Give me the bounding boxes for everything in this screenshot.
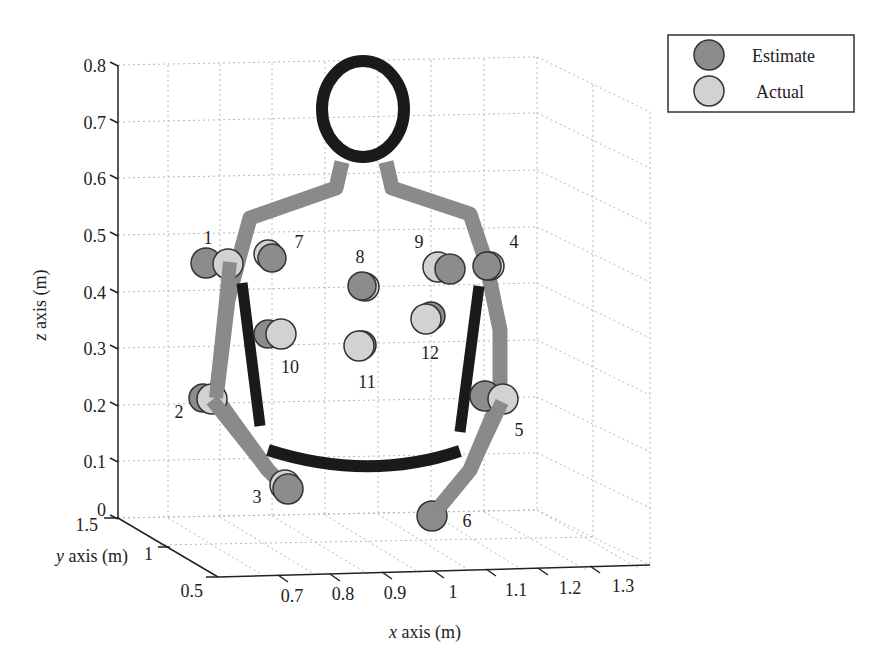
z-axis-label: z axis (m) — [30, 269, 51, 341]
svg-text:0: 0 — [97, 500, 106, 520]
svg-text:1.2: 1.2 — [559, 578, 582, 598]
actual-point-12 — [411, 304, 441, 334]
torso-left-line — [242, 283, 260, 426]
estimate-point-3 — [273, 474, 303, 504]
svg-text:0.2: 0.2 — [84, 396, 107, 416]
svg-text:1.5: 1.5 — [76, 515, 99, 535]
x-tick-labels: 0.7 0.8 0.9 1 1.1 1.2 1.3 — [281, 576, 635, 606]
svg-text:1.1: 1.1 — [505, 580, 528, 600]
svg-text:10: 10 — [281, 357, 299, 377]
svg-text:0.6: 0.6 — [84, 169, 107, 189]
legend-estimate-label: Estimate — [752, 46, 815, 66]
svg-text:0.7: 0.7 — [84, 113, 107, 133]
head — [322, 61, 404, 157]
legend: Estimate Actual — [668, 35, 854, 112]
svg-text:1: 1 — [204, 228, 213, 248]
y-axis-label: y axis (m) — [54, 546, 128, 567]
svg-text:1: 1 — [449, 582, 458, 602]
floor-grid — [118, 510, 638, 576]
legend-actual-label: Actual — [756, 82, 804, 102]
estimate-point-9 — [435, 254, 465, 284]
svg-text:0.1: 0.1 — [84, 452, 107, 472]
svg-text:11: 11 — [358, 372, 375, 392]
svg-text:8: 8 — [356, 247, 365, 267]
torso-right-line — [460, 286, 479, 432]
actual-point-11 — [344, 331, 374, 361]
estimate-point-8 — [348, 272, 376, 300]
legend-actual-marker — [694, 76, 724, 106]
estimate-point-7 — [258, 244, 286, 272]
x-axis-label: x axis (m) — [388, 622, 461, 643]
svg-text:0.3: 0.3 — [84, 339, 107, 359]
svg-text:0.9: 0.9 — [384, 583, 407, 603]
svg-text:0.4: 0.4 — [84, 283, 107, 303]
svg-text:7: 7 — [295, 232, 304, 252]
axes — [104, 62, 650, 582]
z-tick-labels: 0.8 0.7 0.6 0.5 0.4 0.3 0.2 0.1 0 — [84, 56, 107, 520]
waist-line — [268, 450, 460, 466]
svg-text:2: 2 — [175, 402, 184, 422]
legend-estimate-marker — [694, 40, 724, 70]
svg-text:1.3: 1.3 — [612, 576, 635, 596]
svg-text:0.8: 0.8 — [84, 56, 107, 76]
svg-text:9: 9 — [415, 232, 424, 252]
actual-point-10 — [266, 319, 296, 349]
z-ticks — [110, 62, 118, 519]
svg-text:5: 5 — [515, 420, 524, 440]
side-wall-grid — [537, 57, 650, 565]
svg-text:1: 1 — [144, 544, 153, 564]
svg-text:0.7: 0.7 — [281, 586, 304, 606]
svg-text:0.5: 0.5 — [181, 581, 204, 601]
svg-text:6: 6 — [463, 511, 472, 531]
svg-text:12: 12 — [421, 343, 439, 363]
svg-text:0.8: 0.8 — [332, 584, 355, 604]
svg-text:4: 4 — [510, 232, 519, 252]
svg-text:3: 3 — [253, 487, 262, 507]
estimate-point-4 — [473, 252, 501, 280]
svg-text:0.5: 0.5 — [84, 226, 107, 246]
chart-3d-plot: 0.8 0.7 0.6 0.5 0.4 0.3 0.2 0.1 0 1.5 1 … — [0, 0, 888, 665]
